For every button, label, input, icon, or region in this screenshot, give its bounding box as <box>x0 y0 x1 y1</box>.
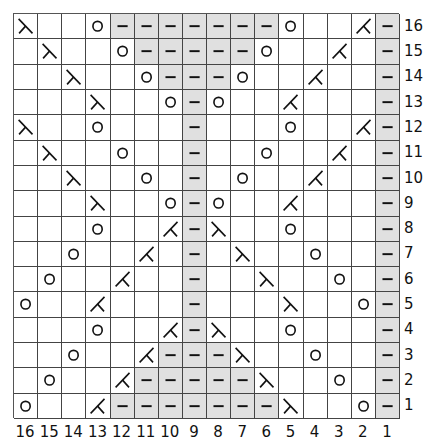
yarn-over-circle-icon <box>328 368 351 392</box>
chart-cell-row6-col7 <box>231 267 255 292</box>
chart-cell-row9-col1 <box>376 191 400 216</box>
purl-dash-icon <box>207 394 230 418</box>
chart-cell-row14-col10 <box>159 65 183 90</box>
row-label: 13 <box>404 93 423 111</box>
chart-cell-row9-col7 <box>231 191 255 216</box>
chart-cell-row7-col5 <box>279 242 303 267</box>
chart-cell-row8-col7 <box>231 217 255 242</box>
yarn-over-circle-icon <box>38 267 61 291</box>
chart-cell-row14-col2 <box>352 65 376 90</box>
chart-cell-row1-col1 <box>376 394 400 419</box>
chart-cell-row5-col11 <box>135 292 159 317</box>
chart-cell-row14-col9 <box>183 65 207 90</box>
chart-cell-row15-col16 <box>14 39 38 64</box>
chart-cell-row9-col10 <box>159 191 183 216</box>
purl-dash-icon <box>376 141 399 165</box>
chart-cell-row2-col13 <box>86 368 110 393</box>
column-label: 4 <box>303 423 327 441</box>
chart-cell-row4-col13 <box>86 318 110 343</box>
chart-cell-row8-col16 <box>14 217 38 242</box>
column-label: 6 <box>254 423 278 441</box>
chart-cell-row9-col5 <box>279 191 303 216</box>
column-label: 12 <box>110 423 134 441</box>
chart-cell-row3-col10 <box>159 343 183 368</box>
purl-dash-icon <box>376 65 399 89</box>
chart-cell-row11-col1 <box>376 141 400 166</box>
chart-cell-row3-col16 <box>14 343 38 368</box>
chart-cell-row4-col9 <box>183 318 207 343</box>
ssk-decrease-icon <box>231 242 254 266</box>
chart-cell-row14-col8 <box>207 65 231 90</box>
chart-cell-row14-col3 <box>328 65 352 90</box>
chart-cell-row9-col3 <box>328 191 352 216</box>
chart-cell-row15-col7 <box>231 39 255 64</box>
yarn-over-circle-icon <box>207 90 230 114</box>
chart-cell-row2-col5 <box>279 368 303 393</box>
purl-dash-icon <box>207 39 230 63</box>
chart-cell-row2-col9 <box>183 368 207 393</box>
column-label: 5 <box>278 423 302 441</box>
chart-cell-row7-col6 <box>255 242 279 267</box>
purl-dash-icon <box>183 267 206 291</box>
chart-cell-row10-col9 <box>183 166 207 191</box>
purl-dash-icon <box>183 368 206 392</box>
purl-dash-icon <box>159 343 182 367</box>
purl-dash-icon <box>207 14 230 38</box>
row-label: 16 <box>404 17 423 35</box>
chart-cell-row14-col13 <box>86 65 110 90</box>
yarn-over-circle-icon <box>86 14 109 38</box>
chart-cell-row6-col15 <box>38 267 62 292</box>
chart-cell-row4-col2 <box>352 318 376 343</box>
column-label: 8 <box>206 423 230 441</box>
yarn-over-circle-icon <box>231 65 254 89</box>
chart-cell-row10-col7 <box>231 166 255 191</box>
chart-cell-row4-col6 <box>255 318 279 343</box>
yarn-over-circle-icon <box>279 14 302 38</box>
k2tog-decrease-icon <box>352 14 375 38</box>
ssk-decrease-icon <box>207 318 230 342</box>
chart-cell-row10-col2 <box>352 166 376 191</box>
chart-cell-row16-col6 <box>255 14 279 39</box>
purl-dash-icon <box>376 267 399 291</box>
ssk-decrease-icon <box>38 39 61 63</box>
purl-dash-icon <box>207 65 230 89</box>
k2tog-decrease-icon <box>111 267 134 291</box>
chart-cell-row12-col8 <box>207 115 231 140</box>
yarn-over-circle-icon <box>86 318 109 342</box>
chart-cell-row11-col15 <box>38 141 62 166</box>
chart-cell-row3-col3 <box>328 343 352 368</box>
chart-cell-row2-col14 <box>62 368 86 393</box>
chart-cell-row11-col4 <box>304 141 328 166</box>
purl-dash-icon <box>376 242 399 266</box>
chart-cell-row15-col2 <box>352 39 376 64</box>
chart-cell-row2-col6 <box>255 368 279 393</box>
chart-cell-row6-col11 <box>135 267 159 292</box>
chart-cell-row3-col14 <box>62 343 86 368</box>
chart-cell-row10-col5 <box>279 166 303 191</box>
purl-dash-icon <box>376 39 399 63</box>
yarn-over-circle-icon <box>328 267 351 291</box>
k2tog-decrease-icon <box>328 39 351 63</box>
purl-dash-icon <box>207 368 230 392</box>
k2tog-decrease-icon <box>279 191 302 215</box>
chart-cell-row13-col8 <box>207 90 231 115</box>
chart-cell-row15-col5 <box>279 39 303 64</box>
purl-dash-icon <box>376 394 399 418</box>
chart-cell-row7-col11 <box>135 242 159 267</box>
chart-cell-row13-col9 <box>183 90 207 115</box>
chart-cell-row11-col11 <box>135 141 159 166</box>
chart-cell-row16-col3 <box>328 14 352 39</box>
chart-cell-row15-col1 <box>376 39 400 64</box>
chart-cell-row4-col16 <box>14 318 38 343</box>
yarn-over-circle-icon <box>86 115 109 139</box>
purl-dash-icon <box>207 343 230 367</box>
yarn-over-circle-icon <box>62 242 85 266</box>
chart-cell-row15-col9 <box>183 39 207 64</box>
chart-cell-row14-col5 <box>279 65 303 90</box>
column-label: 9 <box>182 423 206 441</box>
purl-dash-icon <box>376 292 399 316</box>
purl-dash-icon <box>231 39 254 63</box>
column-label: 10 <box>158 423 182 441</box>
yarn-over-circle-icon <box>304 343 327 367</box>
chart-cell-row5-col15 <box>38 292 62 317</box>
